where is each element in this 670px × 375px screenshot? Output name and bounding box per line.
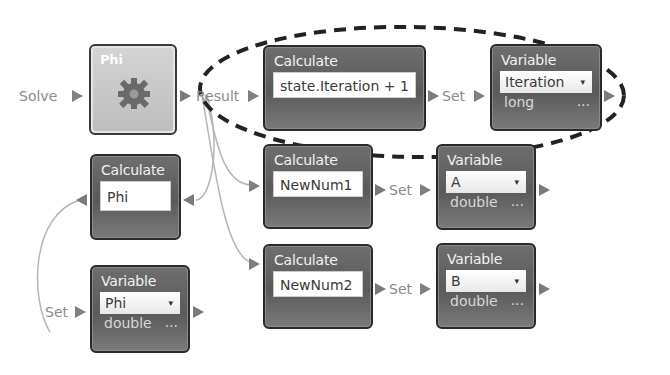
set-a-port-label: Set: [389, 182, 412, 198]
calculate-phi-output-arrow-icon[interactable]: [183, 194, 194, 206]
variable-phi-type: double: [104, 315, 152, 331]
calculate-newnum2-input-arrow-icon[interactable]: [249, 258, 260, 270]
variable-phi-output-arrow-icon[interactable]: [193, 306, 204, 318]
chevron-down-icon[interactable]: ▾: [514, 171, 519, 193]
variable-phi-select[interactable]: Phi ▾: [100, 292, 180, 314]
variable-phi-node[interactable]: Variable Phi ▾ double ...: [90, 265, 190, 353]
set-iteration-port-label: Set: [442, 88, 465, 104]
calculate-phi-expression-input[interactable]: Phi: [100, 181, 171, 211]
solve-port-label: Solve: [19, 88, 57, 104]
variable-b-type: double: [450, 293, 498, 309]
set-phi-port-arrow-icon[interactable]: [75, 306, 86, 318]
variable-iteration-output-arrow-icon[interactable]: [604, 90, 615, 102]
variable-a-selected: A: [451, 174, 461, 190]
variable-iteration-node[interactable]: Variable Iteration ▾ long ...: [490, 44, 602, 131]
gear-icon: [117, 76, 151, 110]
calculate-iteration-title: Calculate: [274, 53, 338, 69]
variable-iteration-selected: Iteration: [505, 74, 564, 90]
variable-b-select[interactable]: B ▾: [446, 270, 526, 292]
calculate-newnum1-input-arrow-icon[interactable]: [249, 180, 260, 192]
calculate-newnum1-output-arrow-icon[interactable]: [375, 184, 386, 196]
variable-b-more-button[interactable]: ...: [511, 293, 524, 307]
variable-a-title: Variable: [447, 152, 502, 168]
result-port-arrow-icon[interactable]: [248, 90, 259, 102]
chevron-down-icon[interactable]: ▾: [514, 270, 519, 292]
variable-a-output-arrow-icon[interactable]: [539, 184, 550, 196]
calculate-newnum2-output-arrow-icon[interactable]: [375, 283, 386, 295]
phi-output-port-arrow-icon[interactable]: [180, 90, 191, 102]
calculate-newnum2-node[interactable]: Calculate NewNum2: [263, 244, 373, 329]
variable-a-select[interactable]: A ▾: [446, 171, 526, 193]
variable-b-output-arrow-icon[interactable]: [539, 283, 550, 295]
variable-a-type: double: [450, 194, 498, 210]
variable-iteration-type: long: [504, 94, 534, 110]
phi-node-title: Phi: [100, 52, 123, 68]
variable-a-node[interactable]: Variable A ▾ double ...: [436, 144, 536, 230]
variable-phi-more-button[interactable]: ...: [165, 315, 178, 329]
variable-phi-title: Variable: [101, 273, 156, 289]
variable-iteration-select[interactable]: Iteration ▾: [500, 71, 592, 93]
calculate-phi-node[interactable]: Calculate Phi: [90, 154, 181, 240]
calculate-newnum1-expression-input[interactable]: NewNum1: [273, 171, 363, 197]
calculate-phi-input-arrow-icon[interactable]: [76, 194, 87, 206]
set-iteration-port-arrow-icon[interactable]: [474, 90, 485, 102]
result-port-label: Result: [196, 88, 239, 104]
variable-phi-selected: Phi: [105, 295, 126, 311]
workflow-canvas[interactable]: Solve Phi Result Calculate state.Iterati…: [0, 0, 670, 375]
variable-b-node[interactable]: Variable B ▾ double ...: [436, 243, 536, 329]
set-b-port-arrow-icon[interactable]: [420, 283, 431, 295]
calculate-newnum2-expression-input[interactable]: NewNum2: [273, 271, 363, 297]
calculate-newnum2-title: Calculate: [274, 252, 338, 268]
variable-iteration-more-button[interactable]: ...: [577, 94, 590, 108]
chevron-down-icon[interactable]: ▾: [168, 292, 173, 314]
calculate-newnum1-node[interactable]: Calculate NewNum1: [263, 144, 373, 229]
variable-a-more-button[interactable]: ...: [511, 194, 524, 208]
phi-function-node[interactable]: Phi: [89, 44, 177, 135]
set-phi-port-label: Set: [45, 304, 68, 320]
calculate-iteration-node[interactable]: Calculate state.Iteration + 1: [263, 45, 426, 131]
calculate-iteration-expression-input[interactable]: state.Iteration + 1: [273, 72, 416, 98]
calculate-phi-title: Calculate: [101, 162, 165, 178]
variable-b-title: Variable: [447, 251, 502, 267]
set-a-port-arrow-icon[interactable]: [420, 184, 431, 196]
solve-port-arrow-icon[interactable]: [72, 90, 83, 102]
set-b-port-label: Set: [389, 281, 412, 297]
calculate-newnum1-title: Calculate: [274, 152, 338, 168]
variable-b-selected: B: [451, 273, 461, 289]
calculate-iteration-output-arrow-icon[interactable]: [428, 90, 439, 102]
variable-iteration-title: Variable: [501, 52, 556, 68]
chevron-down-icon[interactable]: ▾: [580, 71, 585, 93]
